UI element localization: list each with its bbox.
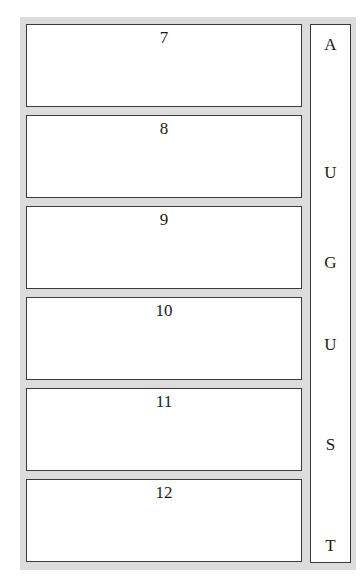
day-box-7[interactable]: 7 [26,24,302,107]
day-number: 12 [27,483,301,503]
day-box-8[interactable]: 8 [26,115,302,198]
day-box-10[interactable]: 10 [26,297,302,380]
month-letter: S [311,435,350,455]
month-letter: G [311,253,350,273]
day-box-9[interactable]: 9 [26,206,302,289]
day-number: 8 [27,119,301,139]
day-number: 10 [27,301,301,321]
day-box-12[interactable]: 12 [26,479,302,562]
month-letter: A [311,35,350,55]
month-letter: U [311,163,350,183]
month-column: A U G U S T [310,24,351,563]
day-number: 11 [27,392,301,412]
month-letter: U [311,335,350,355]
day-number: 7 [27,28,301,48]
month-letter: T [311,536,350,556]
day-number: 9 [27,210,301,230]
day-box-11[interactable]: 11 [26,388,302,471]
